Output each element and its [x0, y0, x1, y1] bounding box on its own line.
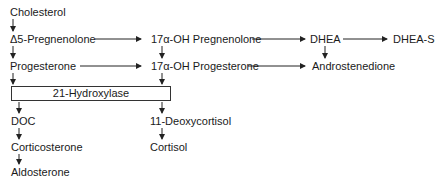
node-cholesterol: Cholesterol	[10, 6, 66, 18]
node-doc: DOC	[11, 115, 35, 127]
node-17-oh-pregnenolone: 17α-OH Pregnenolone	[151, 33, 261, 45]
enzyme-box-21-hydroxylase: 21-Hydroxylase	[11, 86, 171, 101]
node-dhea: DHEA	[310, 33, 341, 45]
node-androstenedione: Androstenedione	[312, 60, 395, 72]
node-corticosterone: Corticosterone	[11, 141, 83, 153]
node-11-deoxycortisol: 11-Deoxycortisol	[150, 115, 231, 127]
node-dhea-s: DHEA-S	[393, 33, 435, 45]
node-cortisol: Cortisol	[150, 141, 187, 153]
node-17-oh-progesterone: 17α-OH Progesterone	[151, 60, 259, 72]
node-progesterone: Progesterone	[10, 60, 76, 72]
node-aldosterone: Aldosterone	[11, 166, 70, 178]
node-pregnenolone: Δ5-Pregnenolone	[10, 33, 96, 45]
